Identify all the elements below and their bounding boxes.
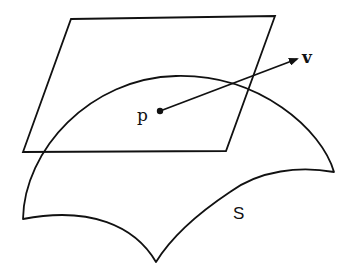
tangent-plane-diagram: p v S [0, 0, 351, 278]
surface-label: S [233, 204, 244, 223]
point-label: p [137, 105, 148, 125]
vector-label: v [301, 47, 313, 67]
diagram-canvas: p v S [0, 0, 351, 278]
point-p-dot [157, 108, 163, 114]
